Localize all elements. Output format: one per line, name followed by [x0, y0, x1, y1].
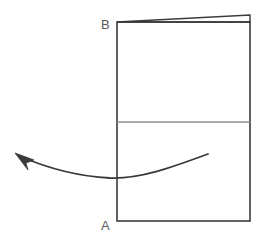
top-sliver-wedge — [117, 15, 250, 22]
diagram-svg: B A — [0, 0, 265, 252]
curved-arrow-shaft — [22, 154, 208, 178]
vertex-label-a: A — [101, 218, 110, 233]
diagram-canvas: B A — [0, 0, 265, 252]
vertex-label-b: B — [101, 17, 110, 32]
